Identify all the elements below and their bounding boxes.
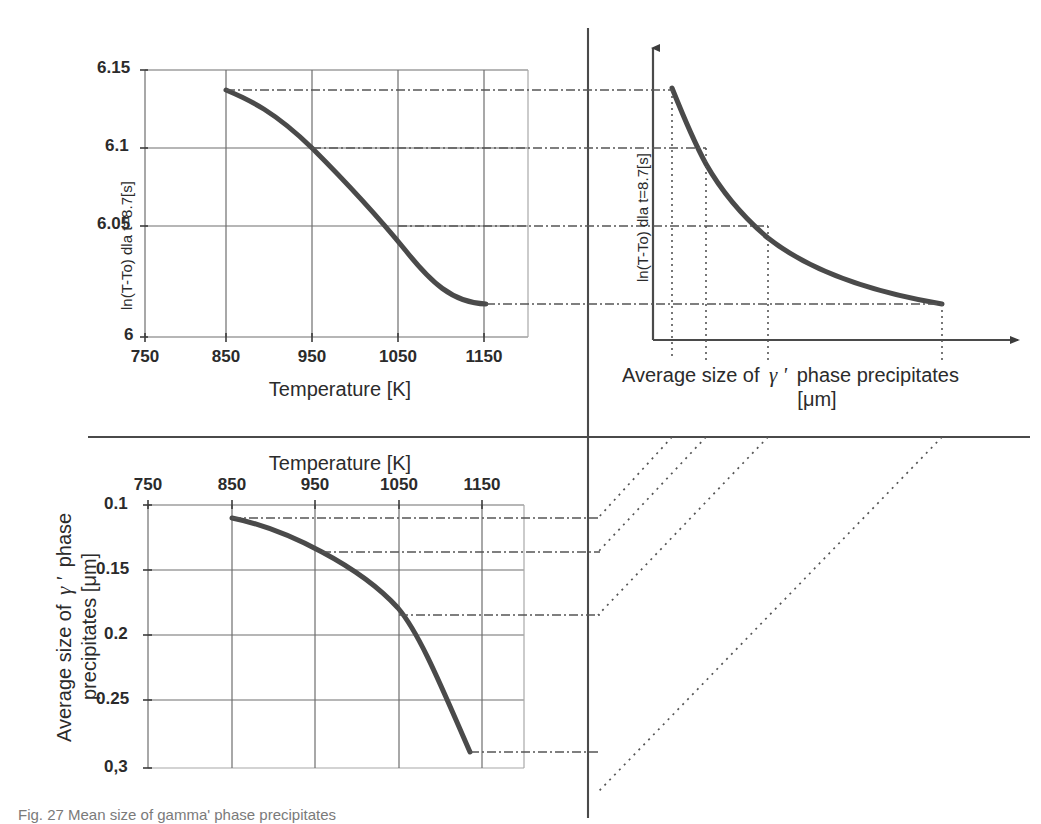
- panel-top-left: [140, 70, 528, 342]
- tl-xtick-2: 950: [279, 347, 345, 367]
- tl-ytick-0: 6.15: [97, 58, 130, 78]
- bl-yaxis-part1: Average size of: [53, 605, 75, 743]
- bl-ytick-2: 0.2: [104, 624, 128, 644]
- tl-xtick-3: 1050: [363, 347, 433, 367]
- bl-yaxis-title-line2: precipitates [μm]: [78, 553, 101, 700]
- curve-top-right: [672, 88, 942, 304]
- bl-xtick-3: 1050: [364, 475, 434, 495]
- construction-lines: [226, 90, 942, 792]
- tr-xaxis-title: Average size of γ ' phase precipitates: [622, 363, 959, 387]
- tl-xtick-0: 750: [112, 347, 178, 367]
- bl-ytick-0: 0.1: [104, 494, 128, 514]
- bl-xtick-4: 1150: [447, 475, 517, 495]
- figure-canvas: [0, 0, 1041, 824]
- tr-xaxis-title-part2: phase precipitates: [797, 364, 959, 386]
- bl-xtick-0: 750: [115, 475, 181, 495]
- bl-ytick-4: 0,3: [104, 757, 128, 777]
- tl-xaxis-title: Temperature [K]: [195, 378, 485, 401]
- tr-gamma-prime-symbol: γ ': [765, 363, 791, 387]
- bl-xaxis-title: Temperature [K]: [195, 452, 485, 475]
- tr-xaxis-unit: [μm]: [622, 388, 1012, 411]
- tl-xtick-1: 850: [193, 347, 259, 367]
- tl-yaxis-title: ln(T-To) dla t=8.7[s]: [118, 181, 135, 310]
- curve-top-left: [226, 90, 486, 304]
- tr-yaxis-title: ln(T-To) dla t=8.7[s]: [634, 153, 651, 282]
- bl-gamma-prime-symbol: γ ': [52, 573, 76, 599]
- panel-bottom-left: [143, 500, 524, 768]
- bl-xtick-2: 950: [282, 475, 348, 495]
- nomogram-figure: 6.15 6.1 6.05 6 750 850 950 1050 1150 Te…: [0, 0, 1041, 824]
- tl-xtick-4: 1150: [449, 347, 519, 367]
- tl-ytick-3: 6: [124, 325, 133, 345]
- bl-xtick-1: 850: [199, 475, 265, 495]
- panel-top-right: [653, 48, 1018, 340]
- bl-yaxis-title-line1: Average size of γ ' phase: [52, 513, 76, 742]
- bl-yaxis-part2: phase: [53, 513, 75, 568]
- figure-caption: Fig. 27 Mean size of gamma' phase precip…: [18, 806, 336, 824]
- tr-xaxis-title-part1: Average size of: [622, 364, 760, 386]
- tl-ytick-1: 6.1: [105, 136, 129, 156]
